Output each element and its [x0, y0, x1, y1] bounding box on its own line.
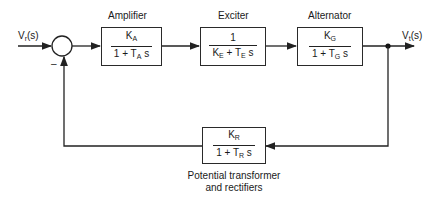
- alternator-title: Alternator: [308, 10, 351, 21]
- amplifier-block: KA 1 + TA s: [101, 27, 162, 66]
- amplifier-title: Amplifier: [108, 10, 147, 21]
- feedback-sign: –: [51, 58, 57, 69]
- exciter-block: 1 KE + TE s: [200, 27, 266, 66]
- input-signal-label: Vr(s): [18, 30, 39, 42]
- feedback-block-title: Potential transformer and rectifiers: [184, 170, 284, 194]
- exciter-title: Exciter: [218, 10, 249, 21]
- feedback-block: KR 1 + TR s: [202, 127, 266, 164]
- alternator-block: KG 1 + TG s: [297, 27, 363, 66]
- summing-junction: [52, 36, 72, 56]
- output-signal-label: Vt(s): [402, 30, 422, 42]
